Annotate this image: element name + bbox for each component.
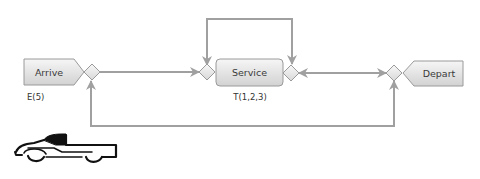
gateway-arrive[interactable] (84, 64, 100, 80)
gateway-depart[interactable] (386, 65, 402, 81)
process-flow-diagram: Arrive E(5) Service T(1,2,3) Depart (0, 0, 480, 179)
service-distribution-label: T(1,2,3) (232, 92, 266, 102)
arrive-distribution-label: E(5) (27, 92, 44, 102)
node-service-label: Service (232, 67, 267, 78)
node-service[interactable]: Service (216, 59, 283, 86)
connector-depart-return (91, 81, 394, 126)
gateway-service-in[interactable] (199, 64, 215, 80)
pickup-truck-icon (15, 134, 116, 162)
node-depart-label: Depart (423, 68, 456, 79)
node-arrive-label: Arrive (35, 67, 63, 78)
gateway-service-out[interactable] (283, 65, 299, 81)
node-arrive[interactable]: Arrive (24, 59, 84, 85)
node-depart[interactable]: Depart (403, 61, 463, 86)
connector-service-loop (207, 19, 292, 65)
